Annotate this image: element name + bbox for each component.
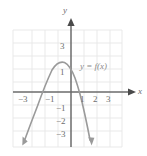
- x-tick-neg1: −1: [45, 95, 55, 104]
- x-tick-2: 2: [93, 95, 98, 104]
- y-axis-label: y: [63, 6, 67, 15]
- x-tick-1: 1: [80, 95, 85, 104]
- y-tick-neg3: −3: [56, 130, 66, 139]
- x-axis-label: x: [138, 87, 142, 96]
- x-tick-3: 3: [106, 95, 111, 104]
- x-axis: [13, 88, 136, 95]
- y-axis: [67, 18, 74, 147]
- y-tick-neg1: −1: [56, 104, 66, 113]
- graph-figure: y x y = f(x) −3 −1 1 2 3 3 1 −1 −2 −3: [0, 0, 147, 156]
- coordinate-plane: [0, 0, 147, 156]
- y-tick-neg2: −2: [56, 117, 66, 126]
- curve-equation-label: y = f(x): [80, 62, 107, 71]
- y-tick-1: 1: [60, 68, 65, 77]
- y-tick-3: 3: [60, 42, 65, 51]
- x-tick-neg3: −3: [18, 95, 28, 104]
